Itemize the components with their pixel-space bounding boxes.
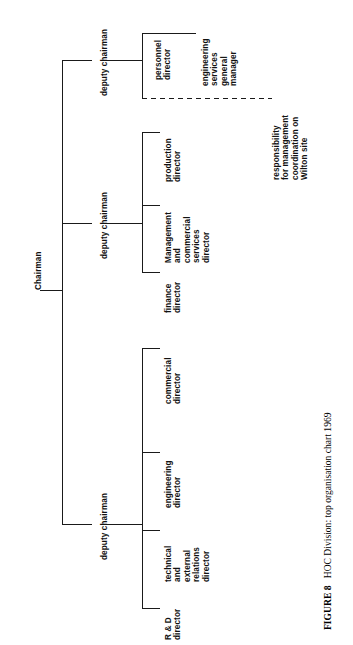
node-deputy-chairman-1: deputy chairman	[100, 493, 109, 560]
node-deputy-chairman-2: deputy chairman	[100, 192, 109, 259]
node-finance-director: finance director	[164, 282, 183, 313]
annotation-wilton-responsibility: responsibility for management coordinati…	[272, 115, 310, 180]
node-chairman: Chairman	[34, 251, 43, 290]
node-personnel-director: personnel director	[154, 40, 173, 80]
node-deputy-chairman-3: deputy chairman	[100, 29, 109, 96]
figure-caption-text: HOC Division: top organisation chart 196…	[322, 412, 333, 578]
node-management-commercial-services-director: Management and commercial services direc…	[164, 212, 211, 263]
node-engineering-services-general-manager: engineering services general manager	[201, 38, 239, 86]
node-commercial-director: commercial director	[164, 357, 183, 404]
figure-caption: FIGURE 8 HOC Division: top organisation …	[322, 412, 333, 630]
organisation-chart: Chairman deputy chairman deputy chairman…	[0, 0, 353, 645]
node-rd-director: R & D director	[164, 609, 183, 640]
node-engineering-director: engineering director	[164, 460, 183, 508]
node-technical-director: technical and external relations directo…	[164, 546, 211, 582]
figure-caption-label: FIGURE 8	[322, 585, 333, 630]
node-production-director: production director	[164, 138, 183, 182]
